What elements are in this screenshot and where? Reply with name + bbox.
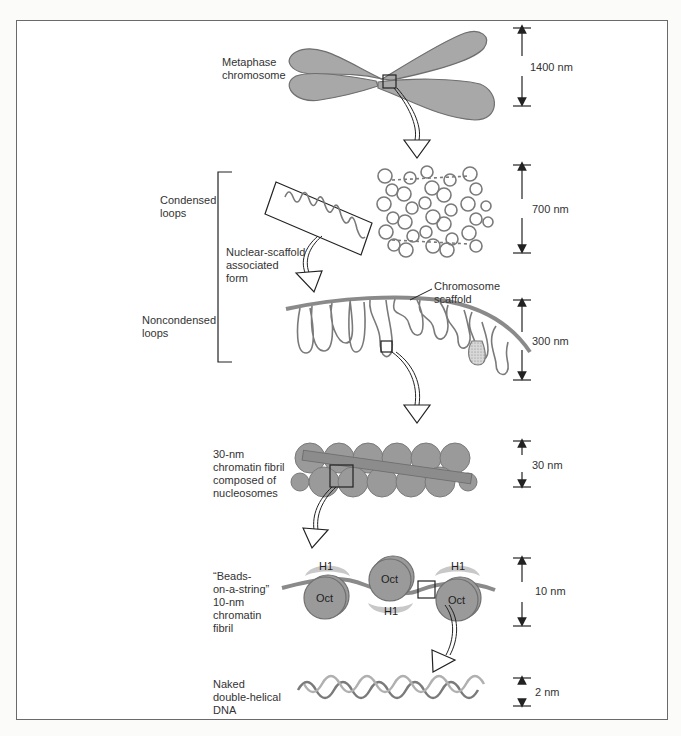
- scale-bars: [513, 28, 531, 706]
- zoom-box-2: [381, 341, 392, 352]
- scale-label-30nm: 30 nm: [532, 458, 563, 472]
- svg-text:Oct: Oct: [448, 594, 465, 606]
- label-nuclear-scaffold: Nuclear-scaffold associated form: [226, 246, 305, 285]
- label-beads-on-a-string: “Beads- on-a-string” 10-nm chromatin fib…: [213, 570, 269, 635]
- loop-detail-box: [265, 182, 372, 255]
- label-noncondensed-loops: Noncondensed loops: [142, 314, 216, 340]
- svg-text:Oct: Oct: [381, 573, 398, 585]
- label-condensed-loops: Condensed loops: [160, 194, 216, 220]
- label-chromosome-scaffold: Chromosome scaffold: [434, 280, 500, 306]
- svg-text:H1: H1: [319, 560, 333, 572]
- metaphase-chromosome: [289, 31, 494, 120]
- label-naked-dna: Naked double-helical DNA: [213, 678, 281, 717]
- diagram-canvas: Oct Oct Oct H1 H1 H1: [0, 0, 681, 736]
- scale-label-2nm: 2 nm: [535, 685, 559, 699]
- scale-label-300nm: 300 nm: [532, 334, 569, 348]
- scale-label-700nm: 700 nm: [532, 202, 569, 216]
- dna-double-helix: [298, 676, 484, 698]
- condensed-loops: [377, 166, 493, 257]
- svg-text:H1: H1: [451, 560, 465, 572]
- scale-label-1400nm: 1400 nm: [530, 60, 573, 74]
- arrow-icon: [392, 352, 430, 423]
- scale-label-10nm: 10 nm: [535, 584, 566, 598]
- label-metaphase-chromosome: Metaphase chromosome: [222, 56, 286, 82]
- label-30nm-fibril: 30-nm chromatin fibril composed of nucle…: [213, 448, 285, 500]
- chromatin-fibril-30nm: [291, 443, 477, 497]
- svg-text:H1: H1: [384, 605, 398, 617]
- svg-text:Oct: Oct: [316, 592, 333, 604]
- chromatin-figure: Oct Oct Oct H1 H1 H1 Metaphase chromosom…: [0, 0, 681, 736]
